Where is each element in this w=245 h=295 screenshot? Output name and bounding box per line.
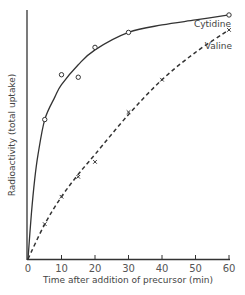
series-label-valine: Valine [205, 41, 233, 51]
data-point-circle [59, 73, 63, 77]
x-tick-label: 20 [89, 263, 102, 274]
x-tick-label: 40 [156, 263, 169, 274]
x-axis-label: Time after addition of precursor (min) [42, 275, 213, 285]
data-point-x [93, 160, 97, 164]
series-line-valine [28, 30, 229, 259]
x-tick-label: 30 [122, 263, 135, 274]
data-point-x [76, 175, 80, 179]
data-point-circle [126, 30, 130, 34]
data-point-x [127, 110, 131, 114]
data-point-circle [93, 45, 97, 49]
x-tick-label: 10 [55, 263, 68, 274]
x-axis: 0102030405060 [25, 255, 236, 274]
data-point-circle [43, 117, 47, 121]
y-axis-label: Radioactivity (total uptake) [7, 74, 17, 197]
x-tick-label: 60 [223, 263, 236, 274]
data-point-x [160, 78, 164, 82]
plot-area [28, 13, 231, 259]
data-point-circle [76, 75, 80, 79]
series-label-cytidine: Cytidine [194, 19, 232, 29]
x-tick-label: 0 [25, 263, 31, 274]
data-point-circle [227, 13, 231, 17]
series-line-cytidine [28, 15, 229, 259]
chart: 0102030405060 Time after addition of pre… [0, 0, 245, 295]
x-tick-label: 50 [189, 263, 202, 274]
